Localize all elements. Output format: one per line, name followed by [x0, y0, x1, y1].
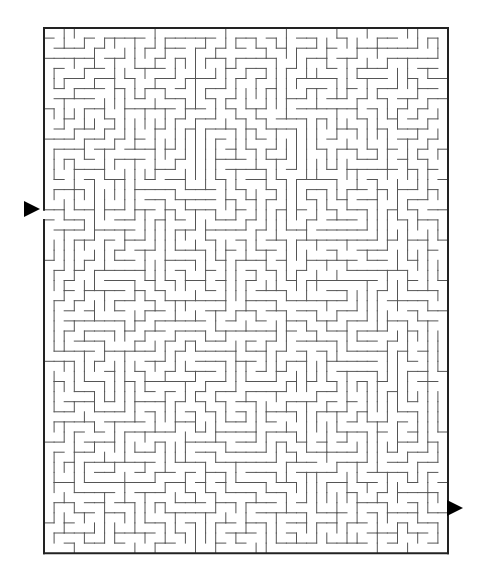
end-arrow-icon: [447, 500, 463, 516]
maze-board: [0, 0, 481, 579]
start-arrow-icon: [24, 201, 40, 217]
